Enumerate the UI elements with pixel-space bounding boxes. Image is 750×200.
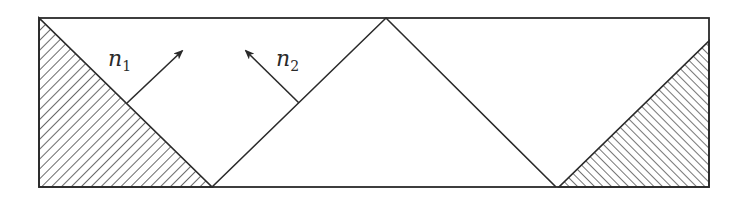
left-hatched-region [39,18,212,187]
diagram-canvas: n1 n2 [0,0,750,200]
label-n1: n1 [108,46,131,74]
label-n2: n2 [276,46,299,74]
zigzag-path [212,18,556,187]
normal-arrow-n1 [127,51,182,103]
right-hatched-region [559,41,709,187]
